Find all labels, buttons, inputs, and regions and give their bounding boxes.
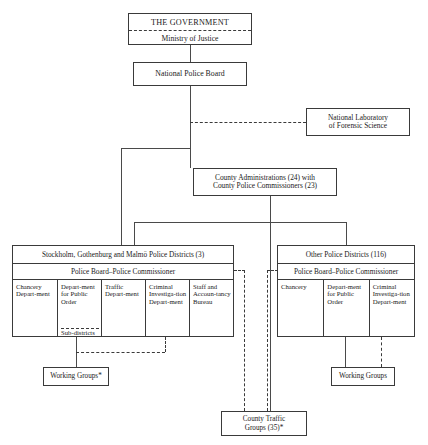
connector-bus-right-drop	[346, 222, 347, 245]
metro-dept-chancery: Chancery Depart-ment	[13, 280, 57, 336]
working-groups-left-label: Working Groups*	[48, 372, 104, 380]
connector-other-cid-to-working-groups	[381, 337, 382, 367]
forensic-laboratory-label: National Laboratory of Forensic Science	[326, 114, 390, 131]
other-districts-header: Other Police Districts (116)	[306, 250, 387, 259]
metro-departments-row: Chancery Depart-ment Depart-ment for Pub…	[13, 279, 233, 336]
forensic-laboratory-box: National Laboratory of Forensic Science	[306, 108, 410, 136]
connector-government-to-npb	[190, 45, 191, 62]
government-title: THE GOVERNMENT	[151, 18, 229, 27]
other-police-board-row: Police Board–Police Commissioner	[278, 263, 414, 279]
connector-other-board-dashed-down	[267, 270, 268, 411]
metro-police-board-label: Police Board–Police Commissioner	[71, 267, 175, 276]
other-districts-block: Other Police Districts (116) Police Boar…	[277, 245, 415, 337]
county-traffic-groups-box: County Traffic Groups (35)*	[221, 411, 307, 436]
metro-dept-traffic: Traffic Depart-ment	[101, 280, 145, 336]
metro-dept-staff-accountancy: Staff and Accoun-tancy Bureau	[189, 280, 233, 336]
metro-districts-header-row: Stockholm, Gothenburg and Malmö Police D…	[13, 246, 233, 263]
connector-metro-cid-to-working-groups	[76, 352, 165, 353]
county-administrations-box: County Administrations (24) with County …	[193, 168, 337, 196]
metro-districts-header: Stockholm, Gothenburg and Malmö Police D…	[42, 250, 204, 259]
county-traffic-groups-label: County Traffic Groups (35)*	[241, 415, 287, 431]
connector-other-public-order-to-working-groups	[345, 337, 346, 367]
metro-dept-criminal-investigation-label: Criminal Investiga-tion Depart-ment	[149, 283, 187, 305]
connector-npb-left-branch-vertical	[121, 148, 122, 245]
other-dept-public-order: Depart-ment for Public Order	[323, 280, 368, 336]
ministry-of-justice-row: Ministry of Justice	[129, 30, 251, 45]
working-groups-right-label: Working Groups	[337, 372, 389, 380]
government-box: THE GOVERNMENT Ministry of Justice	[128, 13, 252, 45]
connector-metro-cid-drop	[165, 337, 166, 352]
county-traffic-groups-line2: Groups (35)*	[245, 424, 284, 432]
connector-county-to-traffic-groups	[270, 196, 271, 411]
ministry-of-justice-label: Ministry of Justice	[162, 34, 219, 43]
metro-dept-public-order: Depart-ment for Public Order Sub-distric…	[57, 280, 101, 336]
national-police-board-box: National Police Board	[133, 62, 247, 86]
other-districts-header-row: Other Police Districts (116)	[278, 246, 414, 263]
county-administrations-line2: County Police Commissioners (23)	[213, 181, 317, 190]
connector-county-distribution-bus	[134, 222, 346, 223]
metro-sub-districts-label: Sub-districts	[61, 328, 99, 336]
connector-npb-trunk	[190, 86, 191, 168]
other-dept-criminal-investigation: Criminal Investiga-tion Depart-ment	[369, 280, 414, 336]
other-dept-chancery-label: Chancery	[281, 283, 321, 290]
metro-dept-traffic-label: Traffic Depart-ment	[105, 283, 143, 298]
metro-dept-staff-accountancy-label: Staff and Accoun-tancy Bureau	[193, 283, 231, 305]
metro-dept-criminal-investigation: Criminal Investiga-tion Depart-ment	[145, 280, 189, 336]
other-departments-row: Chancery Depart-ment for Public Order Cr…	[278, 279, 414, 336]
organization-chart: THE GOVERNMENT Ministry of Justice Natio…	[0, 0, 428, 445]
national-police-board-label: National Police Board	[153, 70, 226, 79]
working-groups-left-box: Working Groups*	[43, 367, 109, 386]
connector-metro-board-dashed-down	[244, 270, 245, 411]
metro-dept-public-order-label: Depart-ment for Public Order	[61, 283, 99, 305]
other-dept-criminal-investigation-label: Criminal Investiga-tion Depart-ment	[373, 283, 412, 305]
other-dept-chancery: Chancery	[278, 280, 323, 336]
connector-npb-to-forensic-lab	[190, 122, 306, 123]
connector-bus-left-drop	[134, 222, 135, 245]
county-traffic-groups-line1: County Traffic	[243, 415, 285, 423]
working-groups-right-box: Working Groups	[331, 367, 395, 386]
metro-districts-block: Stockholm, Gothenburg and Malmö Police D…	[12, 245, 234, 337]
connector-npb-left-branch-horizontal	[121, 148, 191, 149]
government-title-row: THE GOVERNMENT	[129, 14, 251, 30]
county-administrations-label: County Administrations (24) with County …	[211, 174, 319, 191]
other-dept-public-order-label: Depart-ment for Public Order	[327, 283, 366, 305]
forensic-laboratory-line2: of Forensic Science	[329, 121, 387, 130]
metro-dept-chancery-label: Chancery Depart-ment	[16, 283, 55, 298]
metro-police-board-row: Police Board–Police Commissioner	[13, 263, 233, 279]
other-police-board-label: Police Board–Police Commissioner	[294, 267, 398, 276]
